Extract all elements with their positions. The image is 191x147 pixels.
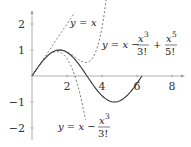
quintic-approx-curve (32, 0, 106, 76)
y-tick-neg2: −2 (9, 122, 25, 135)
x-tick-2: 2 (64, 80, 71, 93)
label-quintic: y = x − x 3 3! + x 5 5! (101, 30, 177, 57)
y-axis-arrow-icon (31, 10, 34, 14)
svg-text:5!: 5! (165, 46, 175, 57)
svg-text:y: y (69, 17, 76, 28)
svg-text:x: x (91, 17, 97, 28)
x-axis-arrow-icon (181, 75, 185, 78)
svg-text:y = x −: y = x − (57, 121, 96, 132)
label-cubic: y = x − x 3 3! (57, 112, 110, 139)
svg-text:y = x −: y = x − (101, 39, 140, 50)
chart-svg: 2 4 6 8 2 1 −1 −2 y = x y = x − x 3 3! +… (0, 0, 191, 147)
x-tick-8: 8 (169, 80, 176, 93)
svg-text:5: 5 (172, 30, 177, 39)
svg-text:+: + (153, 39, 161, 50)
svg-text:=: = (79, 17, 87, 28)
y-tick-2: 2 (18, 18, 25, 31)
svg-text:3!: 3! (137, 46, 147, 57)
svg-text:3!: 3! (98, 128, 108, 139)
y-tick-1: 1 (18, 44, 25, 57)
y-tick-neg1: −1 (9, 96, 25, 109)
svg-text:3: 3 (144, 30, 149, 39)
label-linear: y = x (69, 17, 97, 28)
x-tick-4: 4 (99, 80, 106, 93)
svg-text:3: 3 (105, 112, 110, 121)
taylor-series-chart: 2 4 6 8 2 1 −1 −2 y = x y = x − x 3 3! +… (0, 0, 191, 147)
